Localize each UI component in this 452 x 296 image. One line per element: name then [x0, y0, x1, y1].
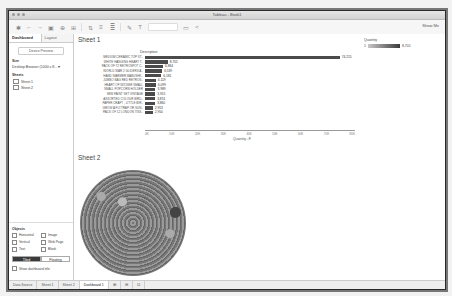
bar-value: 2,950: [153, 110, 163, 114]
bar-value: 2,953: [153, 106, 163, 110]
objects-label: Objects: [12, 227, 70, 231]
legend-title: Quantity: [364, 38, 411, 42]
bar-label: MEDIUM CERAMIC TOP ST..: [78, 55, 145, 59]
tiled-button[interactable]: Tiled: [12, 256, 41, 262]
bar-value: 6,181: [161, 74, 171, 78]
new-sheet-icon[interactable]: ⊞: [70, 24, 76, 31]
tab-layout[interactable]: Layout: [41, 34, 74, 42]
bar-label: ASSORTED COLOUR BIRD..: [78, 97, 145, 101]
bar-value: 8,701: [168, 60, 178, 64]
tab-data-source[interactable]: Data Source: [9, 281, 37, 289]
bar[interactable]: [145, 102, 155, 105]
tab-sheet1[interactable]: Sheet 1: [37, 281, 58, 289]
tab-dashboard1[interactable]: Dashboard 1: [80, 281, 109, 289]
window-title: Tableau - Book1: [9, 11, 445, 19]
dashboard-pane: Dashboard Layout Device Preview Size Des…: [9, 34, 74, 281]
bar[interactable]: [145, 56, 340, 59]
sheet-icon: [13, 79, 19, 84]
show-title-checkbox[interactable]: Show dashboard title: [12, 266, 70, 271]
new-datasource-icon[interactable]: ⊕: [59, 24, 65, 31]
bar-value: 3,860: [155, 101, 165, 105]
bar-label: HAND WARMER BABUSHK..: [78, 74, 145, 78]
object-image[interactable]: Image: [41, 233, 70, 238]
title-bar: Tableau - Book1: [9, 11, 445, 20]
bar[interactable]: [145, 74, 161, 77]
bar[interactable]: [145, 92, 155, 95]
bar-row[interactable]: PACK OF 12 LONDON TISS..2,950: [78, 110, 364, 115]
sheet2-view[interactable]: Sheet 2: [78, 154, 100, 161]
sort-desc-icon[interactable]: ≣: [109, 24, 115, 31]
bar[interactable]: [145, 111, 153, 114]
x-tick: 60K: [298, 132, 303, 136]
bar[interactable]: [145, 83, 156, 86]
label-icon[interactable]: T: [137, 24, 143, 30]
save-icon[interactable]: ▣: [48, 24, 54, 31]
sheet-item[interactable]: Sheet 2: [13, 85, 69, 90]
bar-value: 3,915: [155, 92, 165, 96]
bar[interactable]: [145, 60, 168, 63]
bar-chart[interactable]: MEDIUM CERAMIC TOP ST..74,215WHITE HANGI…: [78, 55, 364, 115]
bar-value: 6,864: [163, 64, 173, 68]
object-vertical[interactable]: Vertical: [12, 240, 41, 245]
bar-row[interactable]: MEDIUM CERAMIC TOP ST..74,215: [78, 55, 364, 60]
device-preview-button[interactable]: Device Preview: [18, 47, 64, 55]
dashboard-canvas: Sheet 1 Description MEDIUM CERAMIC TOP S…: [74, 34, 445, 281]
quantity-legend[interactable]: Quantity 1 8,701: [364, 38, 411, 48]
forward-icon[interactable]: →: [37, 24, 43, 30]
object-horizontal[interactable]: Horizontal: [12, 233, 41, 238]
bar-value: 4,119: [156, 78, 166, 82]
bar-value: 4,099: [156, 83, 166, 87]
bar-value: 3,874: [155, 97, 165, 101]
x-tick: 70K: [324, 132, 329, 136]
size-dropdown[interactable]: Desktop Browser (1000 x 8... ▾: [12, 65, 70, 69]
share-icon[interactable]: <: [194, 24, 200, 30]
sheet-item[interactable]: Sheet 1: [13, 79, 69, 84]
legend-min: 1: [364, 44, 366, 48]
floating-button[interactable]: Floating: [41, 256, 70, 262]
sheet1-title: Sheet 1: [78, 36, 364, 43]
x-tick: 40K: [246, 132, 251, 136]
new-dashboard-icon[interactable]: ⊟: [121, 281, 133, 289]
presentation-icon[interactable]: ▭: [183, 24, 189, 31]
highlight-icon[interactable]: ✎: [126, 24, 132, 31]
tab-sheet2[interactable]: Sheet 2: [59, 281, 80, 289]
sheet1-view[interactable]: Sheet 1 Description MEDIUM CERAMIC TOP S…: [78, 36, 364, 151]
tableau-window: Tableau - Book1 ✱ ← → ▣ ⊕ ⊞ ⇅ ≡ ≣ ✎ T ▭ …: [8, 10, 446, 290]
bar-label: PACK OF 12 LONDON TISS..: [78, 110, 145, 114]
tableau-logo-icon[interactable]: ✱: [15, 24, 21, 31]
objects-section: Objects Horizontal Image Vertical Web Pa…: [9, 222, 73, 281]
object-web-page[interactable]: Web Page: [41, 240, 70, 245]
swap-icon[interactable]: ⇅: [87, 24, 93, 31]
new-worksheet-icon[interactable]: ⊞: [109, 281, 121, 289]
new-story-icon[interactable]: ⊡: [133, 281, 145, 289]
sheets-label: Sheets: [12, 73, 70, 77]
bar[interactable]: [145, 88, 155, 91]
show-me-button[interactable]: Show Me: [422, 23, 439, 28]
tab-dashboard[interactable]: Dashboard: [9, 34, 41, 42]
bar-label: MINI PAINT SET VINTAGE: [78, 92, 145, 96]
fit-dropdown[interactable]: [148, 23, 178, 31]
legend-gradient: [368, 44, 400, 48]
bar[interactable]: [145, 69, 162, 72]
x-axis-title[interactable]: Quantity ↓F: [233, 137, 251, 141]
bar[interactable]: [145, 97, 155, 100]
sort-asc-icon[interactable]: ≡: [98, 24, 104, 30]
bar-label: JUMBO BAG RED RETROS..: [78, 78, 145, 82]
bar-label: PAPER CRAFT , LITTLE BIR..: [78, 101, 145, 105]
size-label: Size: [12, 59, 70, 63]
bar-label: SMALL POPCORN HOLDER: [78, 87, 145, 91]
x-tick: 80K: [350, 132, 355, 136]
packed-bubble-chart[interactable]: [80, 170, 186, 276]
bar-label: PACK OF 72 RETROSPOT C..: [78, 64, 145, 68]
object-blank[interactable]: Blank: [41, 247, 70, 252]
x-tick: 20K: [195, 132, 200, 136]
bar[interactable]: [145, 79, 156, 82]
bar-label: GROW A FLYTRAP OR SUN..: [78, 106, 145, 110]
x-axis: 0K10K20K30K40K50K60K70K80K: [145, 130, 355, 136]
back-icon[interactable]: ←: [26, 24, 32, 30]
bar-value: 3,989: [155, 87, 165, 91]
object-text[interactable]: Text: [12, 247, 41, 252]
bar[interactable]: [145, 106, 153, 109]
bar-label: WORLD WAR 2 GLIDERS A..: [78, 69, 145, 73]
bar[interactable]: [145, 65, 163, 68]
